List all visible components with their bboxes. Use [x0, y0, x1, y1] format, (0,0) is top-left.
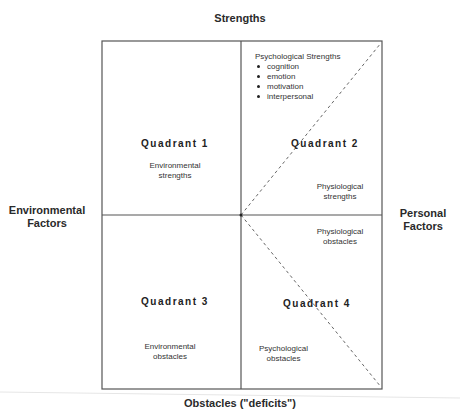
axis-label-left: Environmental Factors [2, 204, 92, 230]
psychological-strengths-list: Psychological Strengths cognition emotio… [255, 52, 375, 102]
quadrant-3-title: Quadrant 3 [120, 296, 230, 307]
list-item: emotion [255, 72, 375, 82]
list-item: cognition [255, 62, 375, 72]
quadrant-2-title: Quadrant 2 [270, 138, 380, 149]
axis-label-right: Personal Factors [388, 207, 458, 233]
axis-label-bottom: Obstacles ("deficits") [140, 397, 340, 410]
quadrant-1-label-line2: strengths [130, 171, 220, 181]
axis-label-left-line1: Environmental [2, 204, 92, 217]
quadrant-2-label-line2: strengths [300, 192, 380, 202]
quadrant-1-title: Quadrant 1 [120, 138, 230, 149]
quadrant-4-label-psychological: Psychological obstacles [246, 344, 321, 364]
list-heading: Psychological Strengths [255, 52, 375, 62]
quadrant-1-label-line1: Environmental [130, 161, 220, 171]
axis-label-left-line2: Factors [2, 217, 92, 230]
quadrant-4-label-2-line1: Psychological [246, 344, 321, 354]
quadrant-3-label: Environmental obstacles [130, 342, 210, 362]
quadrant-4-title: Quadrant 4 [262, 298, 372, 309]
quadrant-4-label-physiological: Physiological obstacles [300, 227, 380, 247]
quadrant-2-label-line1: Physiological [300, 182, 380, 192]
axis-label-right-line1: Personal [388, 207, 458, 220]
axis-label-right-line2: Factors [388, 220, 458, 233]
quadrant-4-label-2-line2: obstacles [246, 354, 321, 364]
quadrant-4-label-1-line2: obstacles [300, 237, 380, 247]
quadrant-1-label: Environmental strengths [130, 161, 220, 181]
list-item: interpersonal [255, 92, 375, 102]
list-item: motivation [255, 82, 375, 92]
quadrant-3-label-line2: obstacles [130, 352, 210, 362]
quadrant-3-label-line1: Environmental [130, 342, 210, 352]
quadrant-2-label: Physiological strengths [300, 182, 380, 202]
axis-label-top: Strengths [190, 12, 290, 25]
quadrant-4-label-1-line1: Physiological [300, 227, 380, 237]
